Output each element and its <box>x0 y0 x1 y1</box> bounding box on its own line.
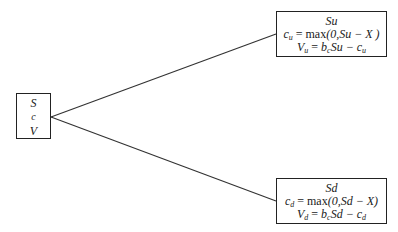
down-portfolio-value: Vd = bcSd − cd <box>277 208 386 221</box>
root-price-label: S <box>17 96 50 110</box>
edge-root-to-up <box>51 34 276 117</box>
up-portfolio-value: Vu = bcSu − cu <box>277 41 386 54</box>
down-state-node: Sd cd = max(0,Sd − X) Vd = bcSd − cd <box>276 178 387 224</box>
root-node: S c V <box>16 93 51 139</box>
root-value-label: V <box>17 124 50 138</box>
root-option-label: c <box>17 110 50 124</box>
edge-root-to-down <box>51 117 276 201</box>
up-state-node: Su cu = max(0,Su − X ) Vu = bcSu − cu <box>276 11 387 57</box>
